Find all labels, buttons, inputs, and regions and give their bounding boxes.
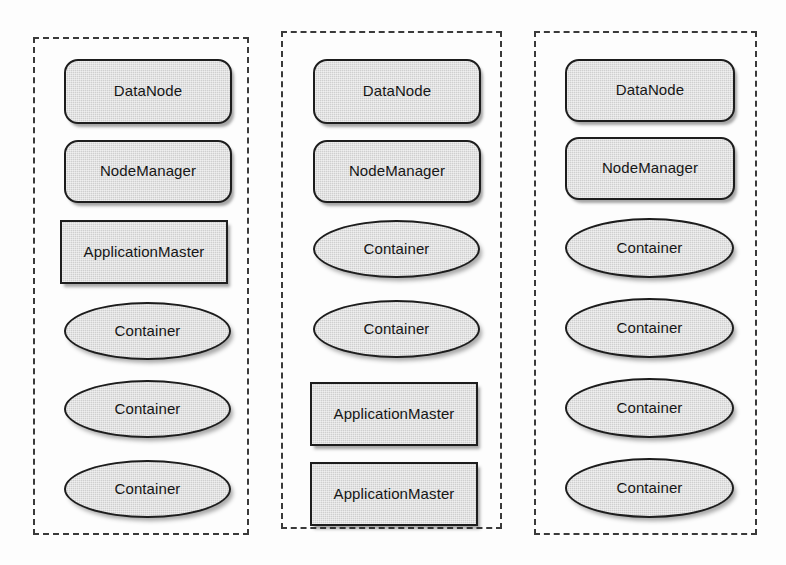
n2-appmaster-1[interactable]: ApplicationMaster (310, 382, 478, 446)
n2-datanode-label: DataNode (363, 83, 431, 100)
n2-container-1-label: Container (364, 241, 430, 258)
n2-nodemanager-label: NodeManager (349, 163, 445, 180)
n2-nodemanager[interactable]: NodeManager (313, 140, 481, 203)
n2-appmaster-2[interactable]: ApplicationMaster (310, 462, 478, 526)
diagram-canvas: DataNodeNodeManagerApplicationMasterCont… (0, 0, 786, 565)
n1-datanode-label: DataNode (114, 83, 182, 100)
n2-appmaster-1-label: ApplicationMaster (334, 406, 455, 423)
n1-container-2-label: Container (115, 401, 181, 418)
n1-container-1-label: Container (115, 323, 181, 340)
n2-container-2[interactable]: Container (313, 300, 480, 358)
cluster-node-1: DataNodeNodeManagerApplicationMasterCont… (33, 37, 249, 535)
n1-container-3-label: Container (115, 481, 181, 498)
cluster-node-2: DataNodeNodeManagerContainerContainerApp… (281, 31, 502, 529)
cluster-node-3: DataNodeNodeManagerContainerContainerCon… (534, 31, 757, 535)
n3-datanode-label: DataNode (616, 82, 684, 99)
n3-container-1[interactable]: Container (565, 218, 734, 278)
n3-nodemanager-label: NodeManager (602, 160, 698, 177)
n1-nodemanager[interactable]: NodeManager (64, 140, 232, 203)
n2-datanode[interactable]: DataNode (313, 59, 481, 124)
n1-nodemanager-label: NodeManager (100, 163, 196, 180)
n3-container-2-label: Container (617, 320, 683, 337)
n1-container-2[interactable]: Container (64, 380, 231, 438)
n3-nodemanager[interactable]: NodeManager (565, 137, 735, 200)
n3-container-2[interactable]: Container (565, 298, 734, 358)
n1-container-3[interactable]: Container (64, 460, 231, 518)
n2-appmaster-2-label: ApplicationMaster (334, 486, 455, 503)
n3-container-3-label: Container (617, 400, 683, 417)
n1-datanode[interactable]: DataNode (64, 59, 232, 124)
n1-container-1[interactable]: Container (64, 302, 231, 360)
n1-appmaster-label: ApplicationMaster (84, 244, 205, 261)
n3-container-4[interactable]: Container (565, 458, 734, 518)
n3-container-1-label: Container (617, 240, 683, 257)
n1-appmaster[interactable]: ApplicationMaster (60, 220, 228, 284)
n2-container-1[interactable]: Container (313, 220, 480, 278)
n3-container-4-label: Container (617, 480, 683, 497)
n3-container-3[interactable]: Container (565, 378, 734, 438)
n3-datanode[interactable]: DataNode (565, 59, 735, 122)
n2-container-2-label: Container (364, 321, 430, 338)
